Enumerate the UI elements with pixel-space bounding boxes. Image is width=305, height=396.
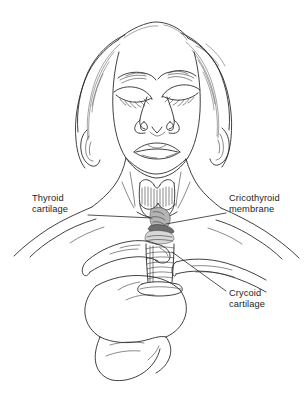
label-cricothyroid-membrane-line2: membrane (229, 204, 280, 215)
label-crycoid-cartilage-line1: Crycoid (229, 288, 265, 299)
anatomy-figure: Thyroid cartilage Cricothyroid membrane … (0, 0, 305, 396)
label-cricothyroid-membrane-line1: Cricothyroid (229, 193, 280, 204)
label-crycoid-cartilage-line2: cartilage (229, 299, 265, 310)
label-cricothyroid-membrane: Cricothyroid membrane (229, 193, 280, 216)
label-thyroid-cartilage-line1: Thyroid (32, 193, 68, 204)
label-thyroid-cartilage: Thyroid cartilage (32, 193, 68, 216)
label-thyroid-cartilage-line2: cartilage (32, 204, 68, 215)
label-crycoid-cartilage: Crycoid cartilage (229, 288, 265, 311)
